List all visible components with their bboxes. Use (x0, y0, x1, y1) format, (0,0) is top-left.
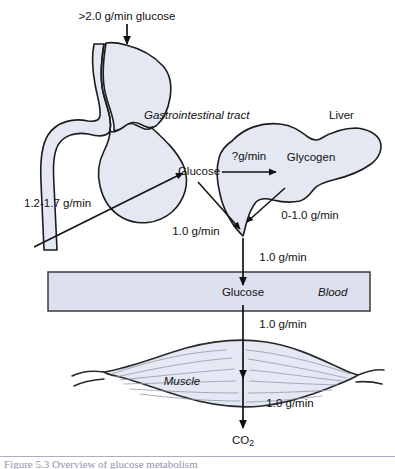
muscle-shape (72, 340, 384, 407)
label-flux-blood-to-muscle: 1.0 g/min (259, 318, 306, 331)
co2-text: CO (232, 434, 249, 446)
figure-root: >2.0 g/min glucose Gastrointestinal trac… (0, 0, 395, 469)
label-flux-muscle-to-co2: 1.0 g/min (266, 397, 313, 410)
label-gastrointestinal-tract: Gastrointestinal tract (144, 109, 249, 122)
label-co2: CO2 (232, 434, 254, 447)
gastrointestinal-tract-shape (41, 43, 187, 250)
label-blood: Blood (318, 286, 347, 299)
label-muscle: Muscle (164, 375, 200, 388)
label-glycogen: Glycogen (287, 151, 336, 164)
label-glucose-blood: Glucose (222, 286, 264, 299)
label-flux-glycogenolysis: 0-1.0 g/min (281, 209, 339, 222)
label-flux-glucose-to-glycogen: ?g/min (232, 150, 267, 163)
label-liver: Liver (329, 109, 354, 122)
label-glucose-intake: >2.0 g/min glucose (79, 10, 176, 23)
label-flux-liver-to-blood: 1.0 g/min (259, 251, 306, 264)
label-flux-gut-absorption: 1.2-1.7 g/min (24, 197, 91, 210)
label-glucose-liver: Glucose (178, 165, 220, 178)
co2-subscript: 2 (249, 438, 254, 448)
figure-caption-strip: Figure 5.3 Overview of glucose metabolis… (0, 461, 395, 469)
figure-caption: Figure 5.3 Overview of glucose metabolis… (4, 461, 198, 469)
label-flux-hepatic-output: 1.0 g/min (172, 225, 219, 238)
